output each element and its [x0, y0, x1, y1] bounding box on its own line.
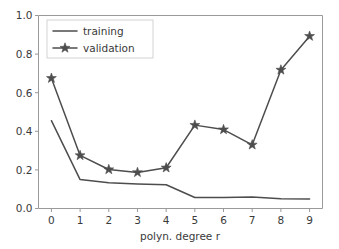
- x-tick-label: 7: [249, 214, 256, 226]
- x-tick-label: 3: [134, 214, 141, 226]
- x-tick-label: 9: [306, 214, 313, 226]
- legend-label-validation: validation: [83, 42, 135, 54]
- x-tick-label: 5: [191, 214, 198, 226]
- x-tick-label: 2: [105, 214, 112, 226]
- x-axis-title: polyn. degree r: [140, 230, 221, 242]
- y-tick-label: 1.0: [16, 9, 33, 21]
- chart-legend: trainingvalidation: [47, 20, 153, 58]
- line-chart: 0.00.20.40.60.81.0 0123456789 trainingva…: [0, 0, 339, 249]
- x-tick-label: 6: [220, 214, 227, 226]
- y-tick-label: 0.0: [16, 202, 33, 214]
- x-tick-label: 8: [278, 214, 285, 226]
- x-tick-label: 0: [48, 214, 55, 226]
- y-tick-label: 0.8: [16, 48, 33, 60]
- legend-label-training: training: [83, 25, 124, 37]
- x-tick-label: 1: [77, 214, 84, 226]
- y-tick-label: 0.4: [16, 125, 33, 137]
- x-tick-label: 4: [163, 214, 170, 226]
- figure-canvas: 0.00.20.40.60.81.0 0123456789 trainingva…: [0, 0, 339, 249]
- y-tick-label: 0.6: [16, 87, 33, 99]
- y-tick-label: 0.2: [16, 164, 33, 176]
